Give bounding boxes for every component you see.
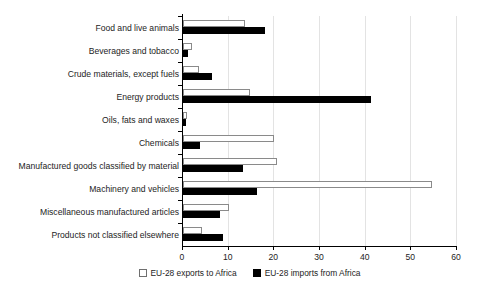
category-label: Oils, fats and waxes	[0, 115, 179, 125]
category-rows: Food and live animalsBeverages and tobac…	[0, 16, 499, 246]
y-axis-tick	[178, 39, 182, 40]
category-label: Beverages and tobacco	[0, 46, 179, 56]
hollow-square-icon	[139, 269, 147, 277]
y-axis-tick	[178, 200, 182, 201]
chart-category-row: Miscellaneous manufactured articles	[0, 200, 499, 223]
bar-exports	[183, 158, 277, 165]
chart-category-row: Energy products	[0, 85, 499, 108]
chart-category-row: Manufactured goods classified by materia…	[0, 154, 499, 177]
legend-item-exports: EU-28 exports to Africa	[139, 268, 237, 278]
bar-exports	[183, 89, 250, 96]
category-label: Crude materials, except fuels	[0, 69, 179, 79]
x-axis-tick-label: 50	[395, 252, 425, 262]
bar-exports	[183, 20, 245, 27]
x-axis-tick	[410, 246, 411, 250]
bar-exports	[183, 43, 192, 50]
chart-category-row: Products not classified elsewhere	[0, 223, 499, 246]
bar-exports	[183, 181, 432, 188]
category-label: Machinery and vehicles	[0, 184, 179, 194]
chart-category-row: Oils, fats and waxes	[0, 108, 499, 131]
bar-exports	[183, 112, 187, 119]
x-axis-tick	[456, 246, 457, 250]
legend-label-imports: EU-28 imports from Africa	[265, 268, 361, 278]
legend-label-exports: EU-28 exports to Africa	[151, 268, 237, 278]
y-axis-tick	[178, 131, 182, 132]
x-axis-tick	[182, 246, 183, 250]
x-axis-tick	[319, 246, 320, 250]
y-axis-tick	[178, 154, 182, 155]
bar-imports	[183, 73, 212, 80]
bar-imports	[183, 96, 371, 103]
bar-imports	[183, 142, 200, 149]
x-axis-tick	[228, 246, 229, 250]
chart-category-row: Crude materials, except fuels	[0, 62, 499, 85]
x-axis-tick-label: 30	[304, 252, 334, 262]
y-axis-tick	[178, 108, 182, 109]
category-label: Products not classified elsewhere	[0, 230, 179, 240]
y-axis-tick	[178, 223, 182, 224]
chart-category-row: Beverages and tobacco	[0, 39, 499, 62]
x-axis-tick-label: 0	[167, 252, 197, 262]
bar-exports	[183, 135, 274, 142]
x-axis-tick	[365, 246, 366, 250]
bar-exports	[183, 204, 229, 211]
legend-item-imports: EU-28 imports from Africa	[253, 268, 361, 278]
chart-category-row: Machinery and vehicles	[0, 177, 499, 200]
bar-exports	[183, 66, 199, 73]
bar-imports	[183, 234, 223, 241]
chart-category-row: Food and live animals	[0, 16, 499, 39]
chart-legend: EU-28 exports to Africa EU-28 imports fr…	[0, 268, 499, 278]
bar-exports	[183, 227, 202, 234]
y-axis-tick	[178, 16, 182, 17]
bar-chart: Food and live animalsBeverages and tobac…	[0, 0, 499, 298]
bar-imports	[183, 119, 186, 126]
x-axis-tick-label: 60	[441, 252, 471, 262]
category-label: Manufactured goods classified by materia…	[0, 161, 179, 171]
filled-square-icon	[253, 269, 261, 277]
bar-imports	[183, 27, 265, 34]
category-label: Miscellaneous manufactured articles	[0, 207, 179, 217]
bar-imports	[183, 188, 257, 195]
y-axis-tick	[178, 85, 182, 86]
category-label: Food and live animals	[0, 23, 179, 33]
bar-imports	[183, 211, 220, 218]
chart-category-row: Chemicals	[0, 131, 499, 154]
bar-imports	[183, 50, 188, 57]
category-label: Energy products	[0, 92, 179, 102]
y-axis-tick	[178, 62, 182, 63]
x-axis-tick-label: 40	[350, 252, 380, 262]
y-axis-tick	[178, 177, 182, 178]
bar-imports	[183, 165, 243, 172]
x-axis-tick	[273, 246, 274, 250]
x-axis-tick-label: 10	[213, 252, 243, 262]
category-label: Chemicals	[0, 138, 179, 148]
x-axis-tick-label: 20	[258, 252, 288, 262]
